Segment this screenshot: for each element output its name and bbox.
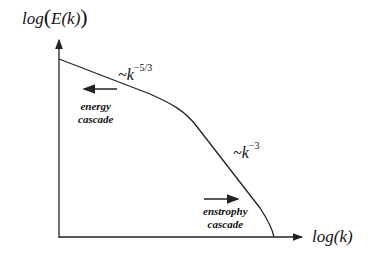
enstrophy-cascade-label: enstrophycascade bbox=[203, 205, 248, 231]
x-axis-label: log(k) bbox=[312, 227, 353, 247]
power-law-label-1: ~k−5/3 bbox=[118, 62, 152, 84]
spectrum-diagram bbox=[0, 0, 372, 256]
power-law-label-2: ~k−3 bbox=[233, 140, 259, 162]
energy-cascade-label: energycascade bbox=[78, 100, 113, 126]
y-axis-label: log(E(k)) bbox=[22, 4, 88, 30]
